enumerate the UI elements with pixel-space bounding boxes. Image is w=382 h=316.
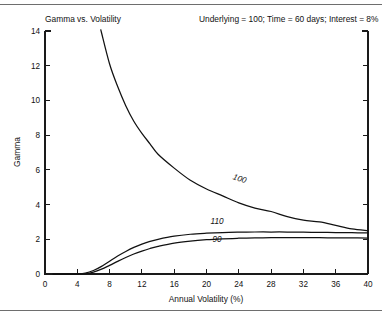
chart-title: Gamma vs. Volatility <box>45 14 122 24</box>
figure-container: Gamma vs. Volatility Underlying = 100; T… <box>0 0 382 316</box>
y-tick-label: 14 <box>31 27 41 36</box>
y-tick-label: 6 <box>35 166 40 175</box>
x-tick-label: 40 <box>363 280 373 289</box>
x-tick-label: 24 <box>234 280 244 289</box>
curve-group <box>53 30 368 274</box>
x-tick-label: 0 <box>43 280 48 289</box>
curve-label-110: 110 <box>210 217 223 226</box>
x-tick-label: 32 <box>299 280 309 289</box>
x-tick-label: 8 <box>107 280 112 289</box>
y-tick-label: 12 <box>31 62 41 71</box>
chart-parameters-annotation: Underlying = 100; Time = 60 days; Intere… <box>199 14 379 24</box>
curve-label-group: 10011090 <box>210 172 247 244</box>
x-tick-label: 16 <box>170 280 180 289</box>
x-tick-label: 28 <box>267 280 277 289</box>
curve-100 <box>101 30 368 231</box>
x-axis-title: Annual Volatility (%) <box>169 294 244 304</box>
y-tick-label: 8 <box>35 131 40 140</box>
x-tick-label: 4 <box>75 280 80 289</box>
top-divider-rule <box>0 4 382 5</box>
bottom-divider-rule <box>0 310 382 311</box>
y-tick-label: 2 <box>35 235 40 244</box>
x-tick-label: 12 <box>137 280 147 289</box>
y-tick-label: 0 <box>35 270 40 279</box>
y-axis-ticks: 02468101214 <box>31 27 368 279</box>
y-tick-label: 4 <box>35 201 40 210</box>
x-tick-label: 20 <box>202 280 212 289</box>
curve-90 <box>53 238 368 274</box>
y-tick-label: 10 <box>31 96 41 105</box>
y-axis-title: Gamma <box>12 137 22 167</box>
gamma-vs-volatility-chart: Gamma vs. Volatility Underlying = 100; T… <box>0 0 382 316</box>
curve-label-90: 90 <box>212 235 222 244</box>
x-tick-label: 36 <box>331 280 341 289</box>
curve-label-100: 100 <box>232 172 248 185</box>
